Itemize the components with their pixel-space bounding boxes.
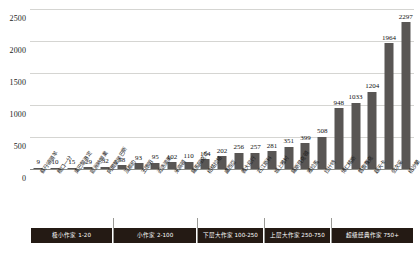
y-axis-tick-label: 0: [22, 174, 26, 183]
category-divider: [113, 218, 114, 243]
x-axis-label-slot: 柏沙蘭: [397, 170, 414, 216]
bar-slot: 508: [314, 9, 331, 169]
y-axis: 05001000150020002500: [0, 9, 30, 169]
x-axis-label-slot: 拉什特: [314, 170, 331, 216]
x-axis-label-slot: 雅拉馬: [297, 170, 314, 216]
bar-value-label: 202: [217, 147, 228, 155]
bar-slot: 93: [130, 9, 147, 169]
bar-slot: 2297: [397, 9, 414, 169]
x-axis-label-slot: 伯次采: [381, 170, 398, 216]
bar-slot: 399: [297, 9, 314, 169]
x-axis-label-slot: 近迭滴果: [147, 170, 164, 216]
bar-value-label: 508: [317, 127, 328, 135]
y-axis-tick-label: 1500: [10, 78, 26, 87]
bar-slot: 948: [331, 9, 348, 169]
x-axis-label-slot: 王德明: [130, 170, 147, 216]
category-band[interactable]: 下层大作家 100-250: [198, 228, 263, 243]
category-band[interactable]: 超级经典作家 750+: [332, 228, 413, 243]
bar-slot: 1964: [381, 9, 398, 169]
y-axis-tick-label: 2000: [10, 46, 26, 55]
x-axis-label-slot: 歐洲時興業: [80, 170, 97, 216]
bar[interactable]: [318, 137, 327, 170]
x-axis-label-slot: 米高頓: [164, 170, 181, 216]
category-divider: [331, 218, 332, 243]
bar-value-label: 2297: [399, 13, 413, 21]
bar-slot: 58: [113, 9, 130, 169]
x-axis-label-slot: 超天卡: [364, 170, 381, 216]
bar-value-label: 256: [233, 143, 244, 151]
x-axis-label-slot: 石江斯科: [247, 170, 264, 216]
bar-slot: 110: [180, 9, 197, 169]
bar-slot: 256: [230, 9, 247, 169]
bar-slot: 281: [264, 9, 281, 169]
bar-slot: 1033: [347, 9, 364, 169]
category-band[interactable]: 上层大作家 250-750: [265, 228, 330, 243]
bar-slot: 351: [280, 9, 297, 169]
x-axis-label-slot: 蘇丹領頭羊: [30, 170, 47, 216]
bar[interactable]: [384, 43, 393, 169]
bar[interactable]: [334, 108, 343, 169]
category-band[interactable]: 极小作家 1-20: [31, 228, 112, 243]
bar-slot: 15: [63, 9, 80, 169]
bar-slot: 32: [97, 9, 114, 169]
x-axis-labels: 蘇丹領頭羊糖口一分東巴黎港定歐洲時興業阿爾蘭居巴斯沒都約王德明近迭滴果米高頓羅馬…: [30, 170, 414, 216]
bar-value-label: 95: [152, 153, 159, 161]
x-axis-label-slot: 糖口一分: [47, 170, 64, 216]
bar-slot: 102: [164, 9, 181, 169]
category-divider: [197, 218, 198, 243]
bar-value-label: 948: [334, 99, 345, 107]
bar-slot: 9: [30, 9, 47, 169]
bar-value-label: 110: [183, 152, 193, 160]
plot-area: 9101529325893951021101542022562572813513…: [30, 9, 414, 169]
bar-value-label: 257: [250, 143, 261, 151]
y-axis-tick-label: 2500: [10, 14, 26, 23]
x-axis-label-slot: 東巴黎港定: [63, 170, 80, 216]
bar-value-label: 351: [284, 137, 295, 145]
bar-slot: 154: [197, 9, 214, 169]
bar-slot: 29: [80, 9, 97, 169]
bar-value-label: 1204: [365, 82, 379, 90]
x-axis-label-slot: 羅斯貝克頓: [280, 170, 297, 216]
bar[interactable]: [401, 22, 410, 169]
bar-value-label: 93: [135, 154, 142, 162]
x-axis-label-slot: 阿爾蘭居巴斯: [97, 170, 114, 216]
x-axis-label-slot: 盧西亞: [214, 170, 231, 216]
bar-slot: 1204: [364, 9, 381, 169]
bar-value-label: 1033: [349, 93, 363, 101]
x-axis-label-slot: 博仁精斯: [331, 170, 348, 216]
category-band[interactable]: 小作家 2-100: [114, 228, 195, 243]
x-axis-label-slot: 沒都約: [113, 170, 130, 216]
bar-value-label: 399: [300, 134, 311, 142]
bar-value-label: 9: [37, 158, 41, 166]
y-axis-tick-label: 1000: [10, 110, 26, 119]
x-axis-label-slot: 普魯賽克: [347, 170, 364, 216]
x-axis-label-slot: 羅馬阿克坎: [180, 170, 197, 216]
y-axis-tick-label: 500: [14, 142, 26, 151]
bar-value-label: 281: [267, 142, 278, 150]
x-axis-label-slot: 柏格拉格: [197, 170, 214, 216]
bar-series: 9101529325893951021101542022562572813513…: [30, 9, 414, 169]
category-band-row: 极小作家 1-20小作家 2-100下层大作家 100-250上层大作家 250…: [30, 228, 414, 243]
x-axis-label-slot: 城上雅村: [264, 170, 281, 216]
x-axis-label-slot: 義大尼行: [230, 170, 247, 216]
bar-value-label: 1964: [382, 34, 396, 42]
bar-slot: 95: [147, 9, 164, 169]
bar-slot: 257: [247, 9, 264, 169]
category-divider: [264, 218, 265, 243]
bar-slot: 10: [47, 9, 64, 169]
bar-slot: 202: [214, 9, 231, 169]
